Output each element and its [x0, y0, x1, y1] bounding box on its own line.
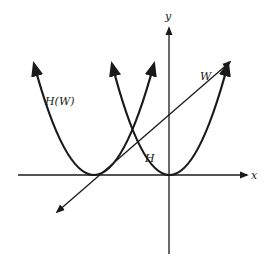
- diagram-canvas: x y W H(W) H: [0, 0, 267, 269]
- parabola-H-of-W-label: H(W): [44, 95, 74, 108]
- y-axis-label: y: [164, 10, 172, 23]
- parabola-H-label: H: [144, 152, 155, 165]
- x-axis-label: x: [251, 169, 258, 182]
- line-W-label: W: [200, 70, 213, 83]
- parabola-H-of-W: [34, 64, 154, 175]
